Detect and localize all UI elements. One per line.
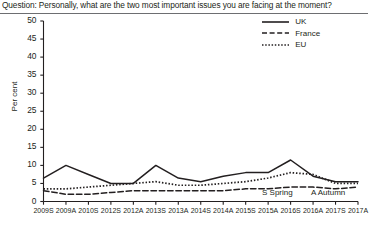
solid-line-icon — [262, 18, 289, 26]
series-line-uk — [44, 160, 359, 183]
y-tick-label: 5 — [17, 177, 37, 187]
y-tick-label: 35 — [17, 69, 37, 79]
x-tick-label: 2017A — [343, 207, 373, 214]
note-autumn: A Autumn — [311, 188, 345, 197]
note-spring: S Spring — [262, 188, 293, 197]
y-tick-label: 20 — [17, 123, 37, 133]
y-tick-label: 15 — [17, 141, 37, 151]
legend-item-uk: UK — [262, 16, 320, 28]
dotted-line-icon — [262, 41, 289, 49]
legend-item-france: France — [262, 28, 320, 40]
legend-label-eu: EU — [295, 39, 306, 51]
legend-label-france: France — [295, 28, 320, 40]
dashed-line-icon — [262, 29, 289, 37]
y-tick-label: 50 — [17, 15, 37, 25]
chart-legend: UK France EU — [262, 16, 320, 51]
legend-label-uk: UK — [295, 16, 306, 28]
y-tick-label: 40 — [17, 51, 37, 61]
y-tick-label: 10 — [17, 159, 37, 169]
y-tick-label: 45 — [17, 33, 37, 43]
y-tick-label: 30 — [17, 87, 37, 97]
y-tick-label: 0 — [17, 196, 37, 206]
legend-item-eu: EU — [262, 39, 320, 51]
y-tick-label: 25 — [17, 105, 37, 115]
